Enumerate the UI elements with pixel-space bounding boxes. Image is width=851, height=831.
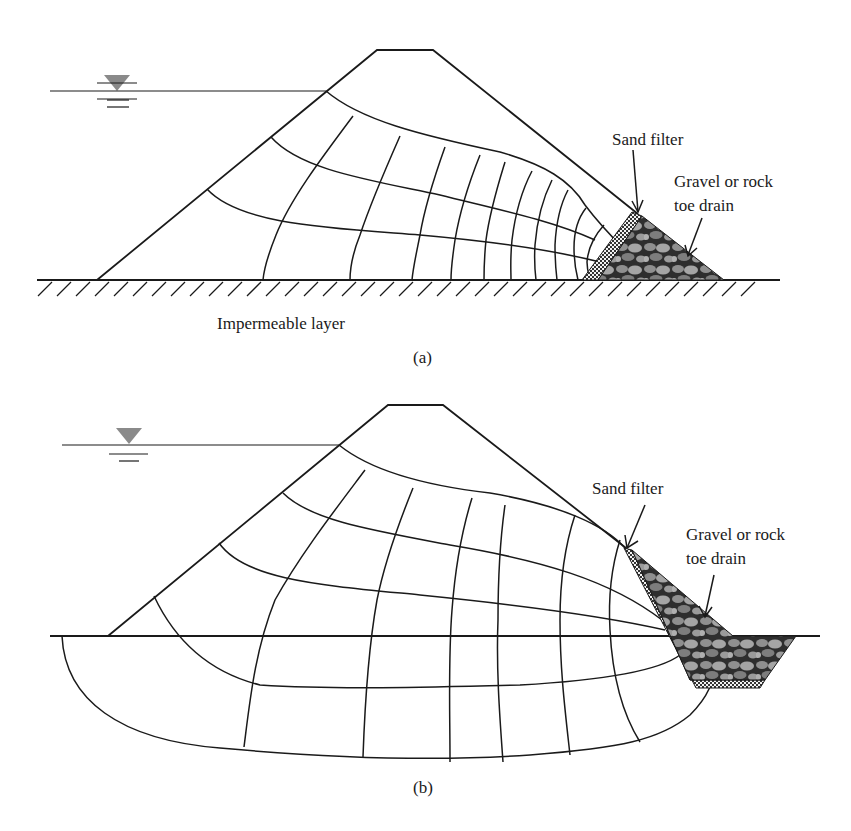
figure-b: Sand filter Gravel or rock toe drain (b)	[50, 405, 820, 797]
toe-drain-label-a-line1: Gravel or rock	[674, 172, 774, 191]
impermeable-hatching	[38, 282, 755, 296]
sand-filter-label-a: Sand filter	[612, 130, 684, 149]
toe-drain-arrow-icon	[685, 218, 702, 256]
water-level-symbol-icon	[97, 75, 137, 100]
toe-drain-label-b-line2: toe drain	[686, 549, 746, 568]
impermeable-layer-label: Impermeable layer	[217, 314, 345, 333]
bottom-flow-line	[62, 636, 714, 759]
toe-drain-label-a-line2: toe drain	[674, 196, 734, 215]
toe-drain-arrow-icon	[699, 575, 714, 617]
caption-a: (a)	[413, 348, 432, 367]
figure-a: Sand filter Gravel or rock toe drain Imp…	[37, 50, 780, 367]
dam-outline	[108, 405, 626, 636]
equipotential-lines	[244, 470, 640, 762]
toe-drain-b	[632, 550, 796, 680]
flow-lines	[207, 91, 625, 262]
flow-net-figure: Sand filter Gravel or rock toe drain Imp…	[0, 0, 851, 831]
sand-filter-label-b: Sand filter	[592, 479, 664, 498]
sand-filter-arrow-icon	[632, 150, 643, 212]
equipotential-lines	[263, 116, 604, 280]
toe-drain-label-b-line1: Gravel or rock	[686, 525, 786, 544]
dam-outline	[97, 50, 638, 280]
caption-b: (b)	[413, 778, 433, 797]
sand-filter-arrow-icon	[625, 505, 645, 548]
